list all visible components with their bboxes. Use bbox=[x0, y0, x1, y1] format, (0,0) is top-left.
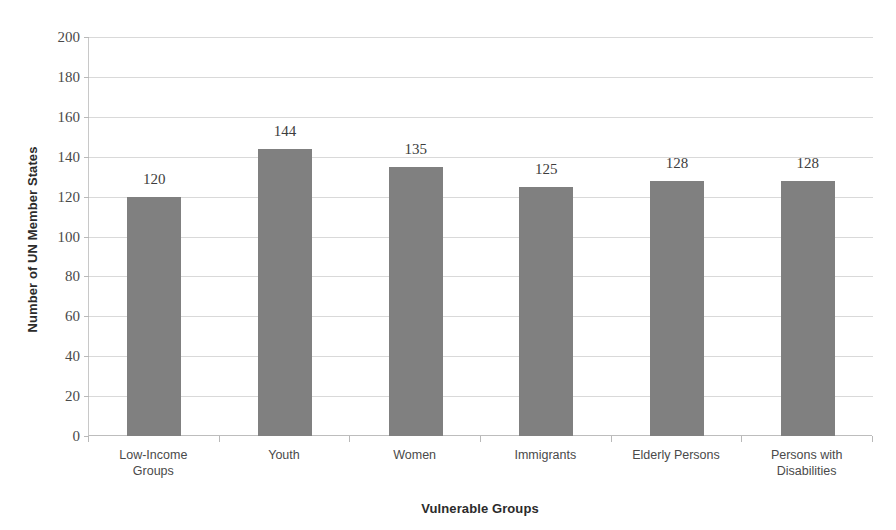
bars-group: 120144135125128128 bbox=[89, 37, 873, 436]
y-axis-tick-label: 160 bbox=[58, 108, 81, 125]
x-axis-category-label: Low-IncomeGroups bbox=[88, 447, 219, 479]
gridline bbox=[89, 436, 873, 437]
y-axis-tick-label: 20 bbox=[65, 388, 80, 405]
x-axis-category-label-line: Elderly Persons bbox=[611, 447, 742, 463]
bar-slot: 135 bbox=[350, 37, 481, 436]
x-axis-tick-mark bbox=[741, 436, 742, 442]
bar-value-label: 120 bbox=[143, 171, 166, 188]
bar[interactable] bbox=[519, 187, 573, 436]
bar-value-label: 125 bbox=[535, 161, 558, 178]
x-axis-category-label: Women bbox=[349, 447, 480, 463]
bar-slot: 128 bbox=[742, 37, 873, 436]
y-axis-tick-label: 40 bbox=[65, 348, 80, 365]
x-axis-tick-mark bbox=[88, 436, 89, 442]
bar[interactable] bbox=[258, 149, 312, 436]
bar[interactable] bbox=[389, 167, 443, 436]
y-axis-tick-label: 120 bbox=[58, 188, 81, 205]
bar-slot: 125 bbox=[481, 37, 612, 436]
bar[interactable] bbox=[781, 181, 835, 436]
bar-chart: Number of UN Member States 2001801601401… bbox=[0, 0, 896, 530]
x-axis-category-label-line: Groups bbox=[88, 463, 219, 479]
x-axis-category-label: Persons withDisabilities bbox=[741, 447, 872, 479]
x-axis-category-label-line: Low-Income bbox=[88, 447, 219, 463]
bar-value-label: 128 bbox=[796, 155, 819, 172]
y-axis-tick-label: 200 bbox=[58, 29, 81, 46]
plot-area: 200180160140120100806040200 120144135125… bbox=[88, 37, 872, 436]
bar-slot: 128 bbox=[612, 37, 743, 436]
x-axis-category-label-line: Youth bbox=[219, 447, 350, 463]
x-axis-tick-mark bbox=[611, 436, 612, 442]
x-axis-tick-mark bbox=[480, 436, 481, 442]
bar[interactable] bbox=[650, 181, 704, 436]
y-axis-tick-label: 0 bbox=[73, 428, 81, 445]
x-axis-category-label-line: Immigrants bbox=[480, 447, 611, 463]
bar[interactable] bbox=[127, 197, 181, 436]
y-axis-tick-label: 180 bbox=[58, 68, 81, 85]
x-axis-tick-mark bbox=[349, 436, 350, 442]
x-axis-category-label: Elderly Persons bbox=[611, 447, 742, 463]
bar-value-label: 135 bbox=[404, 141, 427, 158]
y-axis-title: Number of UN Member States bbox=[25, 90, 40, 390]
x-axis-category-label: Youth bbox=[219, 447, 350, 463]
x-axis-title: Vulnerable Groups bbox=[88, 501, 872, 516]
y-axis-tick-label: 140 bbox=[58, 148, 81, 165]
x-axis-tick-mark bbox=[219, 436, 220, 442]
bar-slot: 120 bbox=[89, 37, 220, 436]
x-axis-category-label: Immigrants bbox=[480, 447, 611, 463]
x-axis-category-label-line: Disabilities bbox=[741, 463, 872, 479]
x-axis-category-label-line: Persons with bbox=[741, 447, 872, 463]
x-axis-category-label-line: Women bbox=[349, 447, 480, 463]
x-axis-tick-mark bbox=[872, 436, 873, 442]
bar-slot: 144 bbox=[220, 37, 351, 436]
y-axis-tick-label: 60 bbox=[65, 308, 80, 325]
y-axis-tick-label: 100 bbox=[58, 228, 81, 245]
y-axis-tick-label: 80 bbox=[65, 268, 80, 285]
bar-value-label: 144 bbox=[274, 123, 297, 140]
bar-value-label: 128 bbox=[666, 155, 689, 172]
